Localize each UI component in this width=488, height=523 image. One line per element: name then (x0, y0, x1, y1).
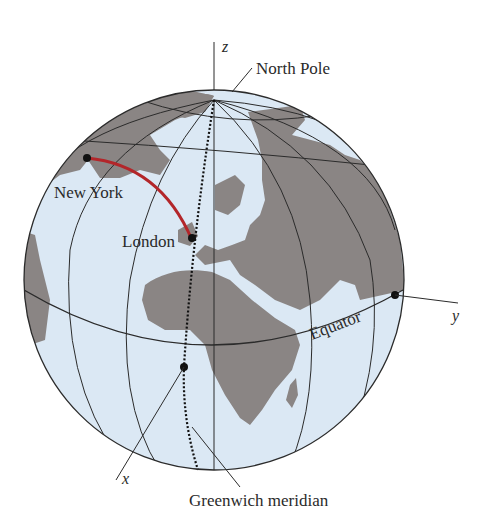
new-york-label: New York (54, 183, 123, 202)
london-point (188, 234, 196, 242)
globe-diagram: z North Pole New York London Equator y x… (0, 0, 488, 523)
y-axis (395, 295, 458, 303)
london-label: London (122, 232, 175, 251)
z-axis-label: z (221, 38, 229, 55)
north-pole-label: North Pole (256, 59, 330, 78)
greenwich-label: Greenwich meridian (189, 491, 329, 510)
x-axis-label: x (121, 470, 129, 487)
new-york-point (83, 154, 91, 162)
y-axis-label: y (450, 307, 460, 325)
north-pole-leader (232, 68, 252, 92)
